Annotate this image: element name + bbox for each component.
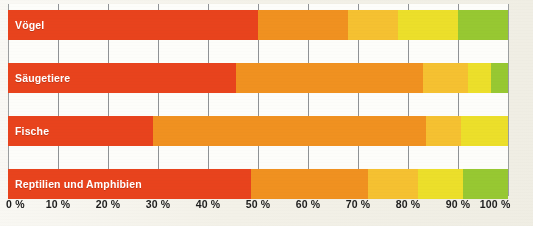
bar-segment-orange — [258, 10, 348, 40]
bar-track — [8, 169, 508, 199]
bar-segment-green — [458, 10, 508, 40]
bar-track — [8, 63, 508, 93]
bar-track — [8, 10, 508, 40]
bar-segment-green — [463, 169, 508, 199]
gridline-100 — [508, 4, 509, 196]
plot-area: VögelSäugetiereFischeReptilien und Amphi… — [8, 4, 508, 196]
x-axis: 0 %10 %20 %30 %40 %50 %60 %70 %80 %90 %1… — [0, 198, 533, 222]
bar-segment-yellow — [461, 116, 509, 146]
x-axis-tick-label-100: 100 % — [480, 198, 511, 210]
bar-row: Säugetiere — [8, 63, 508, 93]
x-axis-tick-label-30: 30 % — [146, 198, 171, 210]
x-axis-tick-label-50: 50 % — [246, 198, 271, 210]
bar-row: Fische — [8, 116, 508, 146]
bar-segment-yellow — [398, 10, 458, 40]
x-axis-tick-label-20: 20 % — [96, 198, 121, 210]
bar-segment-orange — [153, 116, 426, 146]
bar-segment-yellow-orange — [423, 63, 468, 93]
bar-segment-red — [8, 169, 251, 199]
bar-segment-orange — [251, 169, 369, 199]
bar-segment-yellow-orange — [368, 169, 418, 199]
bar-segment-yellow-orange — [426, 116, 461, 146]
bar-segment-yellow-orange — [348, 10, 398, 40]
bar-segment-green — [491, 63, 509, 93]
stacked-bar-chart: VögelSäugetiereFischeReptilien und Amphi… — [0, 0, 533, 226]
bar-row: Vögel — [8, 10, 508, 40]
x-axis-tick-label-10: 10 % — [46, 198, 71, 210]
bar-segment-red — [8, 63, 236, 93]
x-axis-tick-label-80: 80 % — [396, 198, 421, 210]
x-axis-tick-label-60: 60 % — [296, 198, 321, 210]
x-axis-tick-label-70: 70 % — [346, 198, 371, 210]
x-axis-tick-label-0: 0 % — [6, 198, 25, 210]
x-axis-tick-label-40: 40 % — [196, 198, 221, 210]
bar-segment-red — [8, 10, 258, 40]
bar-segment-yellow — [418, 169, 463, 199]
x-axis-tick-label-90: 90 % — [446, 198, 471, 210]
bar-segment-orange — [236, 63, 424, 93]
bar-segment-red — [8, 116, 153, 146]
bar-row: Reptilien und Amphibien — [8, 169, 508, 199]
bar-segment-yellow — [468, 63, 491, 93]
bar-track — [8, 116, 508, 146]
